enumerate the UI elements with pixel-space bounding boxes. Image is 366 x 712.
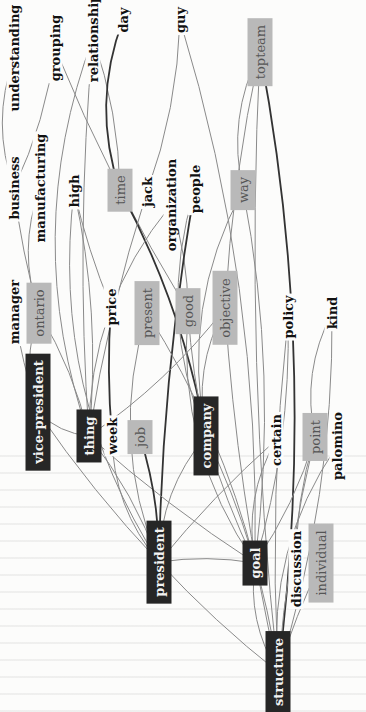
node-point: point: [303, 413, 328, 461]
node-certain: certain: [269, 412, 284, 468]
node-understanding: understanding: [7, 3, 22, 114]
node-relationship: relationship: [86, 0, 101, 84]
node-manager: manager: [7, 278, 22, 346]
node-good: good: [176, 288, 201, 334]
node-jack: jack: [140, 175, 155, 209]
node-time: time: [108, 168, 133, 211]
node-topteam: topteam: [248, 18, 273, 86]
network-diagram: understandinggroupingrelationshipdayguyb…: [0, 0, 366, 712]
edge-president-goal: [159, 559, 255, 563]
node-vice-president: vice-president: [26, 353, 51, 470]
node-palomino: palomino: [330, 410, 345, 482]
node-high: high: [67, 173, 82, 210]
node-company: company: [194, 397, 219, 476]
node-present: present: [135, 281, 160, 345]
diagram-edges: [0, 0, 366, 712]
node-president: president: [147, 520, 172, 603]
node-job: job: [128, 420, 153, 454]
node-individual: individual: [309, 523, 334, 602]
node-structure: structure: [266, 631, 291, 712]
node-grouping: grouping: [48, 13, 63, 84]
node-guy: guy: [173, 5, 188, 35]
node-discussion: discussion: [289, 529, 304, 609]
node-policy: policy: [281, 293, 296, 340]
node-goal: goal: [243, 540, 268, 585]
node-way: way: [231, 170, 256, 210]
node-objective: objective: [213, 271, 238, 345]
node-organization: organization: [164, 157, 179, 253]
node-people: people: [188, 163, 203, 215]
node-business: business: [7, 154, 22, 221]
node-kind: kind: [325, 295, 340, 332]
node-manufacturing: manufacturing: [33, 132, 48, 245]
node-thing: thing: [77, 410, 102, 463]
node-price: price: [104, 286, 119, 327]
edge-relationship-thing: [83, 38, 93, 436]
edge-kind-structure: [278, 313, 332, 672]
node-day: day: [116, 5, 131, 34]
edge-day-time: [106, 20, 123, 190]
node-week: week: [105, 416, 120, 457]
node-ontario: ontario: [27, 282, 52, 343]
edge-relationship-thing: [55, 38, 93, 436]
